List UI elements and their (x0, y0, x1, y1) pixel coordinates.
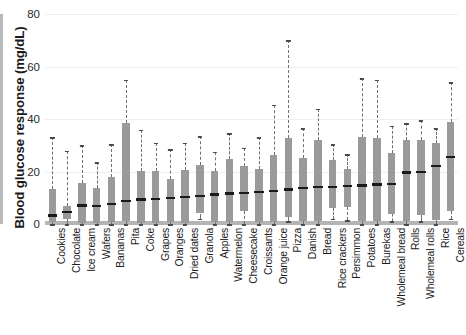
upper-whisker (274, 105, 275, 155)
lower-whisker (392, 214, 393, 222)
box-plot-box (93, 14, 101, 224)
lower-whisker-cap (404, 224, 408, 226)
median-line (343, 185, 353, 187)
median-line (416, 171, 426, 173)
x-axis-tick-label: Granola (204, 228, 215, 264)
median-line (180, 196, 190, 198)
box-iqr (108, 177, 116, 223)
upper-whisker-cap (301, 128, 305, 130)
upper-whisker (111, 144, 112, 177)
upper-whisker-cap (286, 40, 290, 42)
upper-whisker-cap (449, 82, 453, 84)
upper-whisker (333, 144, 334, 160)
lower-whisker-cap (109, 224, 113, 226)
box-iqr (314, 140, 322, 221)
upper-whisker-cap (227, 133, 231, 135)
median-line (269, 190, 279, 192)
upper-whisker (185, 143, 186, 171)
lower-whisker-cap (198, 219, 202, 221)
upper-whisker-cap (124, 80, 128, 82)
y-axis-tick-label: 20 (14, 166, 40, 178)
median-line (431, 165, 441, 167)
upper-whisker-cap (154, 143, 158, 145)
upper-whisker-cap (168, 149, 172, 151)
plot-area (45, 14, 458, 224)
median-line (195, 195, 205, 197)
median-line (446, 156, 456, 158)
x-axis-tick-label: Rice (440, 228, 451, 248)
x-axis-tick-label: Bread (322, 228, 333, 255)
upper-whisker (229, 133, 230, 159)
box-plot-box (181, 14, 189, 224)
median-line (166, 197, 176, 199)
upper-whisker-cap (404, 123, 408, 125)
box-plot-box (240, 14, 248, 224)
box-iqr (167, 179, 175, 223)
median-line (48, 214, 58, 216)
lower-whisker-cap (124, 224, 128, 226)
box-plot-box (108, 14, 116, 224)
y-axis-tick-label: 40 (14, 113, 40, 125)
x-axis-tick-label: Cheesecake (248, 228, 259, 284)
box-plot-box (211, 14, 219, 224)
upper-whisker (318, 109, 319, 141)
box-iqr (329, 160, 337, 209)
y-axis-tick-label: 60 (14, 61, 40, 73)
median-line (62, 211, 72, 213)
box-iqr (122, 123, 130, 221)
upper-whisker-cap (375, 80, 379, 82)
lower-whisker-cap (419, 221, 423, 223)
lower-whisker-cap (316, 224, 320, 226)
box-iqr (270, 155, 278, 223)
upper-whisker (288, 40, 289, 138)
x-axis-tick-label: Grapes (160, 228, 171, 261)
upper-whisker (406, 123, 407, 140)
lower-whisker-cap (154, 224, 158, 226)
box-plot-box (137, 14, 145, 224)
box-plot-box (373, 14, 381, 224)
box-iqr (196, 165, 204, 213)
box-plot-box (388, 14, 396, 224)
x-axis-tick-label: Croissants (263, 228, 274, 275)
lower-whisker-cap (345, 220, 349, 222)
lower-whisker-cap (301, 224, 305, 226)
box-plot-box (358, 14, 366, 224)
lower-whisker-cap (434, 224, 438, 226)
lower-whisker-cap (272, 224, 276, 226)
box-iqr (432, 143, 440, 220)
median-line (357, 184, 367, 186)
box-iqr (255, 169, 263, 223)
box-iqr (137, 171, 145, 223)
box-plot-box (344, 14, 352, 224)
lower-whisker (347, 207, 348, 220)
lower-whisker-cap (227, 224, 231, 226)
upper-whisker (170, 149, 171, 179)
median-line (254, 191, 264, 193)
upper-whisker (436, 128, 437, 142)
upper-whisker-cap (360, 78, 364, 80)
x-axis-tick-label: Ice cream (86, 228, 97, 272)
y-axis-tick-label: 0 (14, 218, 40, 230)
upper-whisker (67, 151, 68, 207)
lower-whisker-cap (242, 224, 246, 226)
x-axis-tick-label: Rolls (410, 228, 421, 250)
median-line (136, 198, 146, 200)
box-plot-box (196, 14, 204, 224)
lower-whisker-cap (360, 224, 364, 226)
median-line (402, 171, 412, 173)
upper-whisker-cap (434, 128, 438, 130)
lower-whisker-cap (213, 224, 217, 226)
x-axis-tick-label: Cookies (56, 228, 67, 264)
lower-whisker-cap (65, 224, 69, 226)
upper-whisker (303, 128, 304, 158)
x-axis-tick-label: Apples (219, 228, 230, 259)
upper-whisker-cap (390, 126, 394, 128)
median-line (298, 187, 308, 189)
upper-whisker (377, 80, 378, 138)
x-axis-tick-label: Dried dates (189, 228, 200, 279)
median-line (151, 198, 161, 200)
box-iqr (240, 166, 248, 211)
lower-whisker-cap (80, 224, 84, 226)
x-axis-tick-label: Coke (145, 228, 156, 251)
